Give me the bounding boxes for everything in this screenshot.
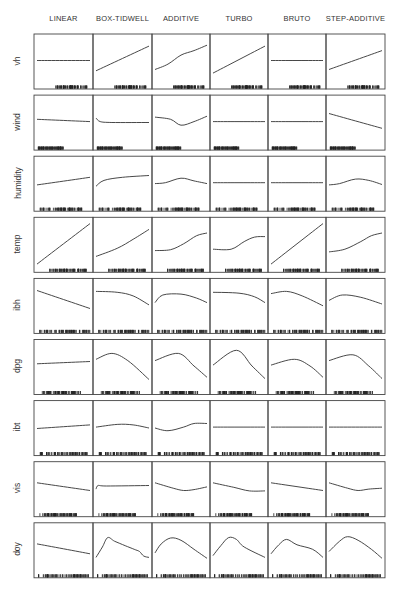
panel-wind-turbo (210, 95, 268, 150)
rug-ticks (158, 513, 194, 516)
panel-vh-box-tidwell (93, 34, 152, 89)
fitted-curve (329, 233, 382, 252)
fitted-curve (37, 291, 90, 309)
rug-ticks (274, 513, 310, 516)
panel-humidity-box-tidwell (93, 156, 152, 211)
fitted-curve (96, 537, 149, 557)
panel-humidity-step-additive (326, 156, 385, 211)
rug-ticks (97, 147, 122, 150)
panel-vis-additive (152, 462, 210, 517)
rug-ticks (168, 269, 204, 272)
rug-ticks (332, 330, 382, 333)
panel-ibh-box-tidwell (93, 278, 152, 333)
fitted-curve (329, 355, 382, 379)
rug-ticks (40, 208, 82, 211)
rug-ticks (50, 269, 86, 272)
panel-temp-linear (34, 217, 93, 272)
rug-ticks (115, 86, 146, 89)
rug-ticks (274, 208, 315, 211)
rug-ticks (348, 86, 379, 89)
rug-ticks (290, 86, 320, 89)
panel-wind-additive (152, 95, 210, 150)
fitted-curve (271, 291, 323, 305)
panel-wind-box-tidwell (93, 95, 152, 150)
panel-temp-turbo (210, 217, 268, 272)
panel-ibt-bruto (268, 401, 326, 456)
fitted-curve (155, 353, 207, 377)
panel-ibh-turbo (210, 278, 268, 333)
rug-ticks (157, 574, 206, 577)
rug-ticks (158, 208, 199, 211)
panel-ibh-bruto (268, 278, 326, 333)
panel-humidity-turbo (210, 156, 268, 211)
panel-dpg-step-additive (326, 340, 385, 395)
fitted-curve (329, 179, 382, 185)
rug-ticks (109, 269, 145, 272)
panel-temp-bruto (268, 217, 326, 272)
fitted-curve (155, 45, 207, 69)
rug-ticks (214, 147, 239, 150)
rug-ticks (216, 330, 265, 333)
panel-ibh-step-additive (326, 278, 385, 333)
panel-ibt-linear (34, 401, 93, 456)
panel-ibt-step-additive (326, 401, 385, 456)
fitted-curve (96, 118, 149, 123)
rug-ticks (40, 513, 77, 516)
panel-dpg-additive (152, 340, 210, 395)
rug-ticks (274, 452, 320, 455)
panel-grid (0, 0, 395, 591)
fitted-curve (96, 485, 149, 489)
fitted-curve (213, 292, 265, 302)
fitted-curve (155, 423, 207, 430)
rug-ticks (226, 269, 262, 272)
fitted-curve (213, 483, 265, 491)
fitted-curve (37, 224, 90, 265)
panel-vis-turbo (210, 462, 268, 517)
fitted-curve (213, 350, 265, 378)
fitted-curve (155, 116, 207, 125)
panel-temp-step-additive (326, 217, 385, 272)
rug-ticks (331, 574, 381, 577)
fitted-curve (213, 237, 265, 250)
rug-ticks (156, 147, 181, 150)
panel-vh-additive (152, 34, 210, 89)
panel-vh-linear (34, 34, 93, 89)
panel-doy-turbo (210, 523, 268, 578)
panel-doy-additive (152, 523, 210, 578)
panel-ibt-turbo (210, 401, 268, 456)
rug-ticks (332, 208, 374, 211)
panel-doy-linear (34, 523, 93, 578)
fitted-curve (329, 51, 382, 70)
fitted-curve (96, 229, 149, 256)
panel-vis-linear (34, 462, 93, 517)
rug-ticks (273, 574, 322, 577)
panel-doy-step-additive (326, 523, 385, 578)
panel-humidity-bruto (268, 156, 326, 211)
panel-wind-bruto (268, 95, 326, 150)
fitted-curve (271, 359, 323, 377)
fitted-curve (96, 424, 149, 428)
fitted-curve (213, 537, 265, 557)
panel-dpg-box-tidwell (93, 340, 152, 395)
fitted-curve (37, 119, 90, 121)
panel-vh-bruto (268, 34, 326, 89)
fitted-curve (96, 46, 149, 71)
panel-vh-step-additive (326, 34, 385, 89)
rug-ticks (218, 391, 255, 394)
rug-ticks (56, 86, 87, 89)
rug-ticks (215, 574, 264, 577)
panel-humidity-linear (34, 156, 93, 211)
rug-ticks (342, 269, 378, 272)
rug-ticks (40, 330, 90, 333)
rug-ticks (232, 86, 262, 89)
panel-wind-linear (34, 95, 93, 150)
rug-ticks (334, 391, 372, 394)
fitted-curve (329, 537, 382, 559)
rug-ticks (272, 147, 297, 150)
rug-ticks (101, 391, 139, 394)
fitted-curve (37, 483, 90, 491)
panel-vis-box-tidwell (93, 462, 152, 517)
fitted-curve (96, 353, 149, 379)
rug-ticks (99, 330, 149, 333)
panel-vh-turbo (210, 34, 268, 89)
